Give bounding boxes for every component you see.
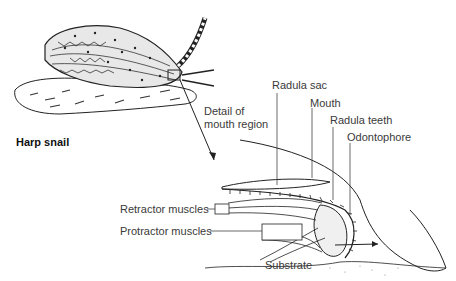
detail-caption-line2: mouth region — [204, 118, 268, 130]
diagram-title: Harp snail — [16, 136, 69, 148]
arrow-icon — [209, 152, 216, 160]
label-protractor-muscles: Protractor muscles — [120, 225, 212, 237]
label-odontophore: Odontophore — [347, 131, 411, 143]
retractor-muscle-block — [215, 204, 229, 214]
label-substrate: Substrate — [265, 259, 312, 271]
label-retractor-muscles: Retractor muscles — [120, 203, 209, 215]
label-radula-teeth: Radula teeth — [330, 114, 392, 126]
label-mouth: Mouth — [310, 97, 341, 109]
snail-siphon — [178, 18, 205, 66]
protractor-muscle-block — [262, 224, 302, 240]
motion-arrow-icon — [372, 241, 378, 247]
detail-caption-line1: Detail of — [204, 105, 244, 117]
body-wall-right — [410, 210, 446, 268]
radula-sac — [222, 179, 330, 189]
odontophore — [314, 205, 347, 256]
label-radula-sac: Radula sac — [272, 79, 327, 91]
